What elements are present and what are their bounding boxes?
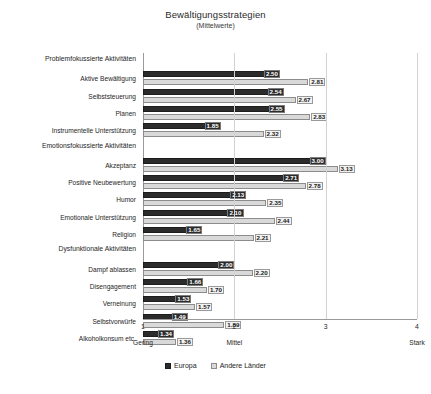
category-label: Religion (112, 230, 136, 239)
x-anchor-label: Stark (409, 339, 424, 346)
bar-andere-laender (143, 166, 338, 172)
category-label: Humor (116, 195, 136, 204)
bar-europa (143, 89, 284, 95)
bar-andere-laender (143, 131, 264, 137)
bar-value-label-europa: 1.34 (158, 330, 174, 338)
legend-item-andere-laender: Andere Länder (211, 362, 266, 369)
bar-value-label-andere-laender: 2.32 (265, 130, 281, 138)
bar-row: 2.542.67 (143, 88, 417, 106)
bar-value-label-andere-laender: 2.67 (297, 96, 313, 104)
bar-value-label-andere-laender: 2.78 (307, 182, 323, 190)
bar-europa (143, 175, 299, 181)
bar-rows: 2.502.812.542.672.552.831.852.323.003.13… (143, 53, 417, 319)
bar-andere-laender (143, 270, 253, 276)
bar-value-label-europa: 2.50 (264, 70, 280, 78)
bar-value-label-andere-laender: 2.20 (254, 269, 270, 277)
bar-value-label-europa: 2.13 (230, 191, 246, 199)
x-tick-label: 3 (324, 323, 328, 330)
bar-andere-laender (143, 200, 266, 206)
x-tick-label: 2 (232, 323, 236, 330)
category-label: Selbstvorwürfe (92, 317, 136, 326)
bar-value-label-andere-laender: 1.57 (196, 303, 212, 311)
category-axis-labels: Problemfokussierte AktivitätenAktive Bew… (0, 53, 140, 319)
bar-value-label-europa: 1.53 (175, 295, 191, 303)
legend-label-europa: Europa (174, 362, 197, 369)
plot-area: 2.502.812.542.672.552.831.852.323.003.13… (143, 53, 417, 319)
gridline (417, 53, 418, 319)
bar-andere-laender (143, 322, 224, 328)
category-label: Akzeptanz (105, 161, 136, 170)
x-anchor-label: Gering (133, 339, 153, 346)
bar-andere-laender (143, 304, 195, 310)
chart-title: Bewältigungsstrategien (0, 9, 431, 21)
gridline (234, 53, 235, 319)
bar-row: 1.661.70 (143, 278, 417, 296)
legend-swatch-icon-europa (165, 363, 171, 369)
bar-value-label-europa: 1.66 (187, 278, 203, 286)
bar-row: 1.491.89 (143, 313, 417, 331)
bar-value-label-europa: 2.55 (269, 105, 285, 113)
bar-value-label-andere-laender: 2.21 (255, 234, 271, 242)
bar-row: 2.132.35 (143, 191, 417, 209)
bar-value-label-europa: 1.85 (205, 122, 221, 130)
bar-row: 1.652.21 (143, 226, 417, 244)
bar-row: 2.712.78 (143, 174, 417, 192)
bar-andere-laender (143, 114, 310, 120)
bar-row: 1.531.57 (143, 295, 417, 313)
bar-value-label-europa: 2.00 (218, 261, 234, 269)
bar-value-label-europa: 2.10 (227, 209, 243, 217)
bar-row: 2.502.81 (143, 70, 417, 88)
category-group-heading: Dysfunktionale Aktivitäten (59, 244, 136, 253)
x-tick-label: 1 (141, 323, 145, 330)
bar-value-label-europa: 2.71 (283, 174, 299, 182)
bar-andere-laender (143, 218, 275, 224)
legend-swatch-icon-andere-laender (211, 363, 217, 369)
bar-row: 1.852.32 (143, 122, 417, 140)
category-label: Planen (115, 109, 136, 118)
bar-row: 2.552.83 (143, 105, 417, 123)
bar-andere-laender (143, 79, 308, 85)
category-label: Positive Neubewertung (68, 178, 136, 187)
bar-andere-laender (143, 287, 207, 293)
category-group-heading: Problemfokussierte Aktivitäten (45, 54, 136, 63)
bar-europa (143, 106, 285, 112)
bar-value-label-europa: 3.00 (310, 157, 326, 165)
bar-row: 2.102.44 (143, 209, 417, 227)
x-tick-label: 4 (415, 323, 419, 330)
bar-value-label-andere-laender: 1.36 (177, 338, 193, 346)
legend-label-andere-laender: Andere Länder (220, 362, 266, 369)
bar-andere-laender (143, 235, 254, 241)
bar-europa (143, 71, 280, 77)
category-label: Verneinung (103, 299, 136, 308)
bar-value-label-andere-laender: 2.81 (309, 78, 325, 86)
bar-value-label-europa: 1.65 (186, 226, 202, 234)
bar-andere-laender (143, 183, 306, 189)
category-group-heading: Emotionsfokussierte Aktivitäten (42, 141, 136, 150)
category-label: Instrumentelle Unterstützung (52, 126, 136, 135)
bar-value-label-andere-laender: 2.44 (276, 217, 292, 225)
bar-row: 2.002.20 (143, 261, 417, 279)
category-label: Alkoholkonsum etc. (79, 334, 136, 343)
chart-legend: Europa Andere Länder (0, 362, 431, 369)
bar-andere-laender (143, 97, 296, 103)
bar-row: 1.341.36 (143, 330, 417, 348)
x-axis-line (143, 319, 417, 320)
bar-value-label-andere-laender: 3.13 (339, 165, 355, 173)
category-label: Dampf ablassen (88, 265, 136, 274)
bar-value-label-andere-laender: 2.35 (267, 199, 283, 207)
legend-item-europa: Europa (165, 362, 197, 369)
bar-value-label-andere-laender: 1.70 (208, 286, 224, 294)
category-label: Selbststeuerung (88, 92, 136, 101)
gridline (326, 53, 327, 319)
x-anchor-label: Mittel (226, 339, 242, 346)
category-label: Emotionale Unterstützung (60, 213, 136, 222)
chart-subtitle: (Mittelwerte) (0, 21, 431, 31)
category-label: Disengagement (90, 282, 136, 291)
category-label: Aktive Bewältigung (80, 74, 136, 83)
bar-value-label-europa: 2.54 (268, 88, 284, 96)
chart-title-block: Bewältigungsstrategien (Mittelwerte) (0, 0, 431, 31)
bar-row: 3.003.13 (143, 157, 417, 175)
